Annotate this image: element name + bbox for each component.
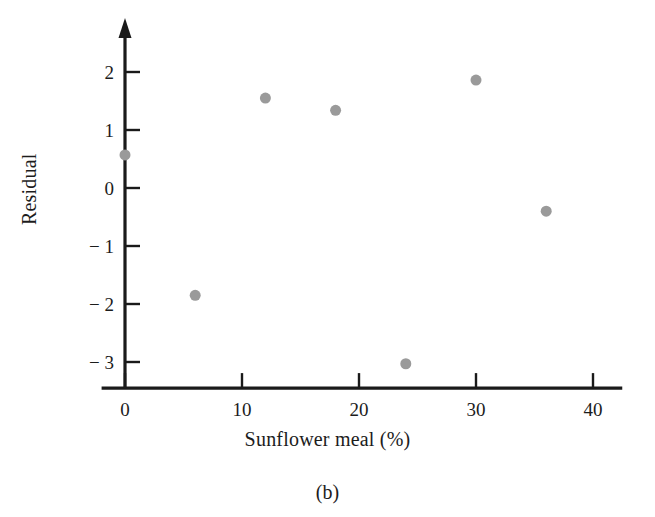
data-point bbox=[190, 290, 201, 301]
y-axis-tick-label: − 3 bbox=[89, 353, 114, 372]
y-axis-tick-label: − 1 bbox=[89, 237, 114, 256]
x-axis-tick-label: 0 bbox=[120, 400, 130, 419]
axis-layer bbox=[102, 18, 623, 388]
x-axis-tick-label: 30 bbox=[467, 400, 486, 419]
figure-page: 210− 1− 2− 3 010203040 Residual Sunflowe… bbox=[0, 0, 655, 517]
data-point bbox=[120, 149, 131, 160]
data-point bbox=[471, 75, 482, 86]
y-axis-tick-label: 2 bbox=[105, 63, 115, 82]
data-point bbox=[330, 105, 341, 116]
x-axis-tick-label: 40 bbox=[584, 400, 603, 419]
data-point bbox=[400, 358, 411, 369]
tick-layer bbox=[125, 72, 593, 388]
y-axis-tick-label: 1 bbox=[105, 121, 115, 140]
scatter-plot: 210− 1− 2− 3 010203040 Residual Sunflowe… bbox=[0, 0, 655, 517]
data-point bbox=[260, 93, 271, 104]
x-axis-tick-label: 20 bbox=[350, 400, 369, 419]
figure-caption: (b) bbox=[0, 481, 655, 504]
data-point-layer bbox=[120, 75, 552, 370]
y-axis-arrowhead bbox=[119, 18, 132, 38]
data-point bbox=[541, 206, 552, 217]
x-axis-tick-label: 10 bbox=[233, 400, 252, 419]
x-axis-title: Sunflower meal (%) bbox=[0, 428, 655, 451]
y-axis-tick-label: 0 bbox=[105, 179, 115, 198]
y-axis-title: Residual bbox=[18, 153, 41, 225]
y-axis-tick-label: − 2 bbox=[89, 295, 114, 314]
